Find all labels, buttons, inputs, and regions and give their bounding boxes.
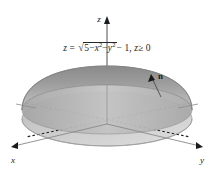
equation-minus-one: − 1, <box>117 43 132 53</box>
equation-condition-rel: ≥ 0 <box>138 43 151 53</box>
equation-radical: √5−x2−y2 <box>78 42 117 53</box>
equation-equals: = <box>70 43 75 53</box>
surface-diagram-svg: n z x y <box>0 0 214 169</box>
sqrt-icon: √ <box>79 42 84 54</box>
figure-canvas: n z x y z = √5−x2−y2− 1, z≥ 0 <box>0 0 214 169</box>
y-axis-arrowhead <box>196 142 203 149</box>
surface-equation: z = √5−x2−y2− 1, z≥ 0 <box>0 42 214 53</box>
z-axis-label: z <box>96 14 101 24</box>
x-axis-label: x <box>10 155 15 165</box>
equation-lhs: z <box>63 43 67 53</box>
y-axis-label: y <box>199 155 204 165</box>
x-axis-arrowhead <box>11 142 18 149</box>
radicand-y-exponent: 2 <box>112 41 115 48</box>
normal-vector-label: n <box>158 71 163 81</box>
z-axis-arrowhead <box>104 16 110 24</box>
equation-radicand: 5−x2−y2 <box>83 42 116 53</box>
